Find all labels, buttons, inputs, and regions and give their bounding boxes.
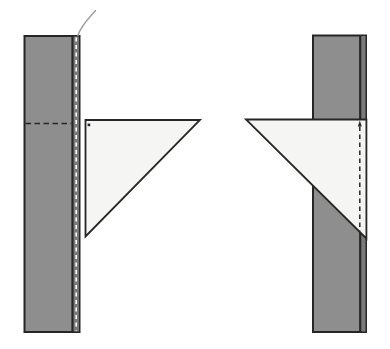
sewing-diagram-canvas — [0, 0, 390, 349]
left-fabric-strip — [25, 36, 80, 332]
right-triangle-patch — [246, 120, 366, 239]
left-triangle-patch — [86, 120, 201, 237]
right-panel — [246, 36, 366, 333]
strip-and-triangle-sewing-diagram — [0, 0, 390, 349]
pin-dot — [88, 124, 91, 127]
thread-curve — [78, 11, 96, 36]
left-panel — [25, 11, 201, 333]
